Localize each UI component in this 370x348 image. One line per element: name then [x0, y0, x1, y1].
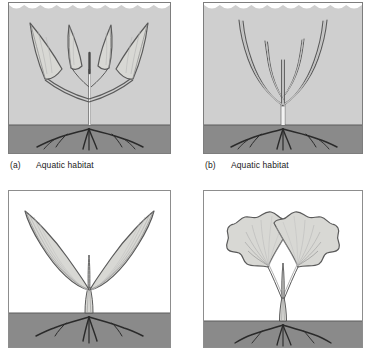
- caption-b: (b) Aquatic habitat: [205, 160, 289, 170]
- caption-a-label: Aquatic habitat: [36, 160, 94, 170]
- plant-illustration-c: [9, 191, 170, 347]
- panel-c: [8, 190, 171, 348]
- caption-b-label: Aquatic habitat: [231, 160, 289, 170]
- panel-d-frame: [203, 190, 363, 348]
- caption-a: (a) Aquatic habitat: [10, 160, 94, 170]
- caption-b-tag: (b): [205, 160, 231, 170]
- plant-illustration-d: [204, 191, 362, 347]
- panel-b: [203, 2, 363, 154]
- plant-illustration-a: [9, 3, 170, 153]
- caption-a-tag: (a): [10, 160, 36, 170]
- panel-a-frame: [8, 2, 171, 154]
- panel-b-frame: [203, 2, 363, 154]
- panel-a: [8, 2, 171, 154]
- plant-illustration-b: [204, 3, 362, 153]
- panel-c-frame: [8, 190, 171, 348]
- panel-d: [203, 190, 363, 348]
